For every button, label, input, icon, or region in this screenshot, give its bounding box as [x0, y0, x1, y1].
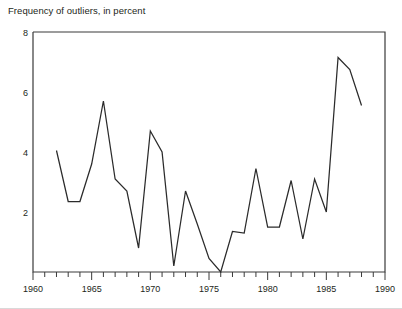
y-tick-label-6: 6 [23, 88, 28, 98]
data-series-line [56, 58, 361, 273]
x-tick-label-1980: 1980 [258, 284, 278, 294]
x-tick-label-1990: 1990 [375, 284, 395, 294]
y-tick-label-4: 4 [23, 148, 28, 158]
x-tick-label-1965: 1965 [82, 284, 102, 294]
x-tick-label-1985: 1985 [316, 284, 336, 294]
line-chart-plot: 8 6 4 2 [0, 0, 402, 309]
x-tick-label-1960: 1960 [23, 284, 43, 294]
x-axis-major-ticks [33, 272, 385, 280]
x-tick-label-1975: 1975 [199, 284, 219, 294]
plot-frame [33, 32, 385, 272]
x-tick-label-1970: 1970 [140, 284, 160, 294]
chart-figure: Frequency of outliers, in percent 8 6 4 … [0, 0, 402, 309]
y-tick-label-2: 2 [23, 208, 28, 218]
y-tick-label-8: 8 [23, 28, 28, 38]
